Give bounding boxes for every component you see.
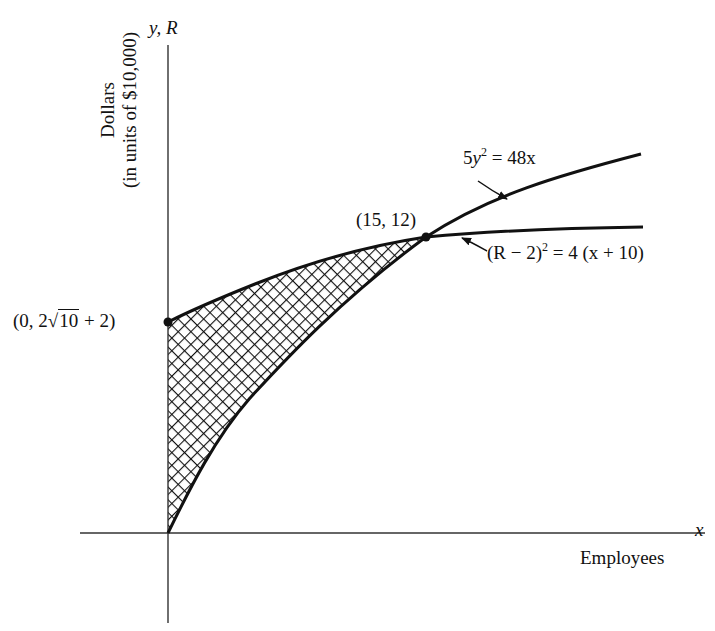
cost-eq-exp: 2 (481, 145, 487, 159)
y-axis-title-line1: Dollars (97, 15, 119, 205)
revenue-eq-exp: 2 (542, 240, 548, 254)
profit-region-diagram: y, R Dollars (in units of $10,000) x Emp… (0, 0, 715, 631)
revenue-curve-pointer-arrow (462, 238, 487, 251)
intersection-point (422, 233, 431, 242)
revenue-eq-lhs: (R − 2) (487, 242, 542, 263)
shaded-region (168, 237, 426, 533)
x-axis-title: Employees (580, 548, 664, 567)
y-intercept-suffix: + 2) (79, 310, 115, 331)
revenue-eq-rhs: = 4 (x + 10) (553, 242, 644, 263)
cost-eq-var: y (473, 147, 481, 168)
x-axis-variable-label: x (695, 520, 703, 539)
cost-curve-equation: 5y2 = 48x (463, 148, 536, 167)
intersection-point-label: (15, 12) (356, 210, 416, 229)
sqrt-radicand: 10 (58, 309, 79, 331)
revenue-curve-equation: (R − 2)2 = 4 (x + 10) (487, 243, 644, 262)
sqrt-symbol: √10 (48, 311, 79, 330)
y-axis-title-block: Dollars (in units of $10,000) (97, 15, 141, 205)
cost-eq-rhs: = 48x (492, 147, 536, 168)
y-intercept-point (164, 318, 173, 327)
y-axis-title-line2: (in units of $10,000) (119, 15, 141, 205)
y-intercept-prefix: (0, 2 (13, 310, 48, 331)
y-axis-variable-label: y, R (149, 18, 178, 37)
cost-curve-pointer-arrow (478, 181, 507, 199)
y-intercept-point-label: (0, 2√10 + 2) (13, 311, 115, 330)
cost-eq-coef: 5 (463, 147, 473, 168)
